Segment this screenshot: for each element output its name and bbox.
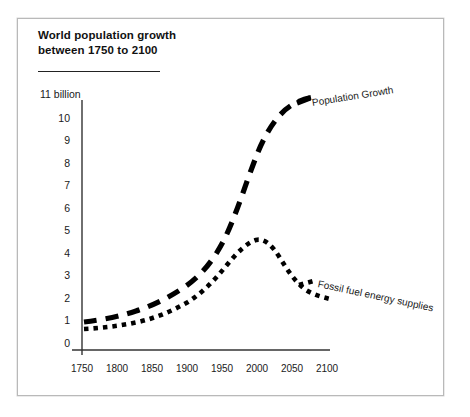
legend-swatch-fossil-fuel bbox=[299, 280, 317, 285]
plot-area bbox=[0, 0, 470, 417]
series-line-population-growth bbox=[84, 97, 314, 322]
chart-figure: World population growth between 1750 to … bbox=[0, 0, 470, 417]
series-line-fossil-fuel bbox=[84, 240, 330, 329]
